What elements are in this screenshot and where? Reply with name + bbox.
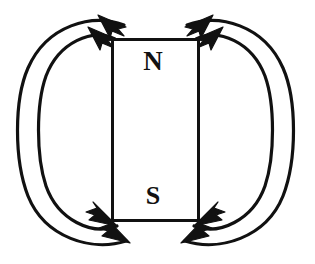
magnet-north-pole-label: N <box>133 48 173 75</box>
field-line-left-inner <box>39 35 118 229</box>
magnetic-field-diagram: N S Two nested closed loops on each side… <box>0 0 315 264</box>
field-lines-canvas <box>0 0 315 264</box>
field-line-right-outer <box>185 21 294 245</box>
magnet-south-pole-label: S <box>133 183 173 209</box>
field-line-left-outer <box>18 21 127 245</box>
field-line-right-inner <box>194 35 273 229</box>
